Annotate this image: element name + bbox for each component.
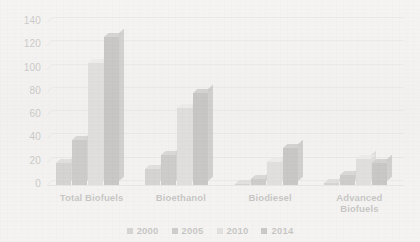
bar-2010-bioethanol bbox=[177, 108, 192, 185]
category-label-line: Biofuels bbox=[315, 203, 404, 214]
bar-face bbox=[145, 169, 160, 185]
gridline-depth-stub bbox=[47, 40, 53, 46]
bar-2010-total-biofuels bbox=[88, 63, 103, 185]
gridline-depth-stub bbox=[47, 17, 53, 23]
category-label-line: Bioethanol bbox=[136, 192, 225, 203]
bar-2014-total-biofuels bbox=[104, 37, 119, 185]
bar-face bbox=[72, 140, 87, 185]
x-axis-category-label: Bioethanol bbox=[136, 192, 225, 203]
legend-item-2014[interactable]: 2014 bbox=[261, 225, 293, 236]
bar-face bbox=[177, 108, 192, 185]
bar-face bbox=[356, 159, 371, 185]
bar-2014-bioethanol bbox=[193, 93, 208, 185]
bar-face bbox=[193, 93, 208, 185]
category-label-line: Total Biofuels bbox=[47, 192, 136, 203]
x-axis-category-label: Total Biofuels bbox=[47, 192, 136, 203]
category-label-line: Biodiesel bbox=[226, 192, 315, 203]
bar-2014-advanced-biofuels bbox=[372, 163, 387, 185]
legend-label: 2000 bbox=[137, 225, 159, 236]
y-axis-tick-label: 20 bbox=[29, 155, 41, 166]
bar-2000-total-biofuels bbox=[56, 163, 71, 185]
x-axis-category-label: AdvancedBiofuels bbox=[315, 192, 404, 214]
y-axis-tick-label: 60 bbox=[29, 108, 41, 119]
y-axis-tick-label: 140 bbox=[24, 15, 41, 26]
bar-face bbox=[161, 155, 176, 185]
y-axis-tick-label: 120 bbox=[24, 38, 41, 49]
bar-face bbox=[88, 63, 103, 185]
y-axis-tick-label: 100 bbox=[24, 62, 41, 73]
bar-2005-biodiesel bbox=[251, 179, 266, 185]
gridline-depth-stub bbox=[47, 64, 53, 70]
bar-2000-advanced-biofuels bbox=[324, 183, 339, 185]
y-axis-tick-label: 40 bbox=[29, 131, 41, 142]
y-axis-tick-label: 0 bbox=[35, 178, 41, 189]
bar-face bbox=[283, 148, 298, 185]
gridline-depth-stub bbox=[47, 134, 53, 140]
x-axis-baseline bbox=[47, 185, 404, 186]
bar-face bbox=[235, 184, 250, 185]
gridline-depth-stub bbox=[47, 110, 53, 116]
legend-item-2000[interactable]: 2000 bbox=[127, 225, 159, 236]
bar-face bbox=[324, 183, 339, 185]
bar-2005-bioethanol bbox=[161, 155, 176, 185]
legend-label: 2010 bbox=[227, 225, 249, 236]
bar-2005-total-biofuels bbox=[72, 140, 87, 185]
gridline bbox=[52, 17, 404, 18]
bar-2010-advanced-biofuels bbox=[356, 159, 371, 185]
category-label-line: Advanced bbox=[315, 192, 404, 203]
bar-face bbox=[251, 179, 266, 185]
legend-item-2010[interactable]: 2010 bbox=[217, 225, 249, 236]
chart-legend: 2000200520102014 bbox=[0, 225, 420, 236]
gridline-depth-stub bbox=[47, 87, 53, 93]
y-axis-tick-label: 80 bbox=[29, 85, 41, 96]
bar-chart: 020406080100120140 Total BiofuelsBioetha… bbox=[0, 0, 420, 242]
bar-face bbox=[267, 162, 282, 185]
bar-2000-biodiesel bbox=[235, 184, 250, 185]
legend-label: 2005 bbox=[182, 225, 204, 236]
bar-side-facet bbox=[119, 29, 124, 181]
bar-face bbox=[340, 175, 355, 185]
x-axis-category-label: Biodiesel bbox=[226, 192, 315, 203]
bar-face bbox=[372, 163, 387, 185]
legend-swatch-icon bbox=[217, 228, 223, 234]
bar-face bbox=[104, 37, 119, 185]
bar-side-facet bbox=[208, 85, 213, 181]
legend-swatch-icon bbox=[172, 228, 178, 234]
gridline-depth-stub bbox=[47, 157, 53, 163]
bar-2000-bioethanol bbox=[145, 169, 160, 185]
bar-face bbox=[56, 163, 71, 185]
legend-label: 2014 bbox=[271, 225, 293, 236]
legend-swatch-icon bbox=[127, 228, 133, 234]
bar-2014-biodiesel bbox=[283, 148, 298, 185]
bar-2005-advanced-biofuels bbox=[340, 175, 355, 185]
legend-item-2005[interactable]: 2005 bbox=[172, 225, 204, 236]
legend-swatch-icon bbox=[261, 228, 267, 234]
bar-2010-biodiesel bbox=[267, 162, 282, 185]
